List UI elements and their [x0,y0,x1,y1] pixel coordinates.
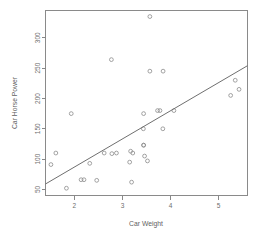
data-point [146,159,150,163]
y-tick-label: 100 [34,153,41,164]
x-tick-label: 4 [169,202,173,209]
data-point [95,178,99,182]
data-point [161,69,165,73]
data-point [110,152,114,156]
y-tick-label: 250 [34,62,41,73]
x-axis-ticks: 2345 [73,196,221,209]
x-tick-label: 3 [121,202,125,209]
data-point [229,94,233,98]
data-point [130,180,134,184]
data-point [115,151,119,155]
data-point [158,109,162,113]
y-tick-label: 200 [34,93,41,104]
data-point [237,87,241,91]
plot-border [46,11,248,196]
y-tick-label: 300 [34,32,41,43]
y-tick-label: 150 [34,123,41,134]
x-tick-label: 2 [73,202,77,209]
data-points [49,15,241,190]
fit-line-segment [46,66,248,184]
data-point [65,186,69,190]
regression-line [46,66,248,184]
data-point [148,69,152,73]
data-point [142,143,146,147]
data-point [88,161,92,165]
data-point [161,127,165,131]
x-tick-label: 5 [217,202,221,209]
data-point [148,15,152,19]
data-point [102,151,106,155]
data-point [49,163,53,167]
data-point [109,58,113,62]
plot-canvas: 50100150200250300 2345 Car Weight Car Ho… [0,0,264,237]
data-point [233,78,237,82]
data-point [128,160,132,164]
data-point [54,151,58,155]
scatter-plot-figure: 50100150200250300 2345 Car Weight Car Ho… [0,0,264,237]
y-axis-title: Car Horse Power [11,76,18,129]
data-point [143,154,147,158]
y-axis-ticks: 50100150200250300 [34,32,45,193]
y-tick-label: 50 [34,185,41,193]
data-point [69,112,73,116]
plot-frame [46,11,248,196]
x-axis-title: Car Weight [129,220,163,228]
data-point [142,112,146,116]
